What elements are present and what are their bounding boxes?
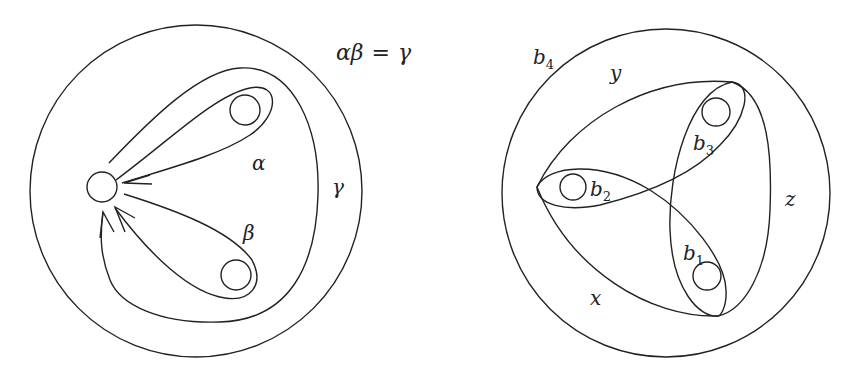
beta-arrow-icon (115, 207, 135, 232)
equation: αβ=γ (336, 40, 412, 65)
label-y: y (609, 61, 622, 85)
basepoint-circle (87, 172, 117, 202)
label-alpha: α (252, 151, 266, 175)
label-x: x (590, 286, 601, 310)
left-diagram: α β γ (30, 25, 362, 357)
label-b1: b1 (683, 241, 704, 268)
beta-loop (115, 194, 257, 299)
puncture-b2 (560, 174, 586, 200)
curve-x (537, 169, 726, 316)
puncture-alpha (230, 95, 260, 125)
alpha-arrow-icon (124, 175, 152, 184)
puncture-b3 (702, 98, 730, 126)
label-z: z (784, 187, 796, 211)
label-beta: β (242, 221, 255, 245)
equation-text: αβ=γ (336, 40, 412, 65)
label-gamma: γ (332, 175, 344, 199)
right-diagram: b4 y b3 b2 z b1 x (502, 29, 830, 357)
outer-boundary-circle-left (30, 25, 362, 357)
label-b2: b2 (590, 177, 611, 204)
puncture-beta (221, 260, 251, 290)
gamma-loop (101, 68, 318, 322)
alpha-loop (116, 87, 273, 183)
diagram-canvas: α β γ αβ=γ b4 y b3 b2 z b1 x (0, 0, 858, 376)
label-b3: b3 (693, 131, 714, 158)
label-b4: b4 (533, 45, 554, 72)
gamma-arrow-icon (100, 212, 114, 238)
